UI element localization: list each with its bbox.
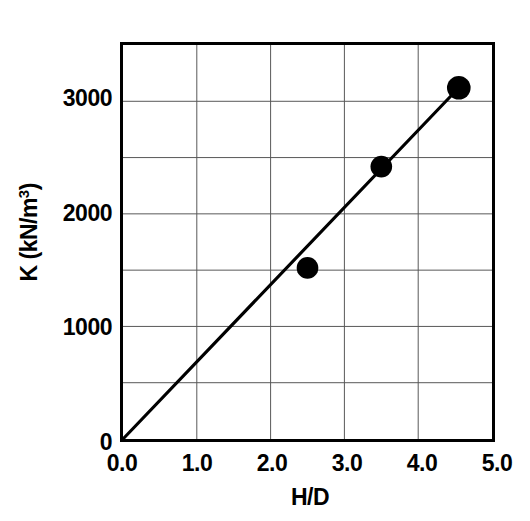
data-series	[123, 45, 492, 439]
y-axis-title-close: )	[16, 183, 42, 190]
data-point-marker	[370, 156, 392, 178]
y-tick-label-2000: 2000	[63, 202, 112, 225]
chart-figure: 3000 2000 1000 0 K (kN/m3)	[0, 0, 530, 521]
data-point-marker	[297, 257, 319, 279]
x-tick-label-4: 4.0	[387, 452, 457, 475]
plot-area	[120, 42, 495, 442]
y-axis-title: K (kN/m3)	[15, 117, 44, 347]
x-tick-label-0: 0.0	[87, 452, 157, 475]
x-tick-label-3: 3.0	[312, 452, 382, 475]
x-axis-title-text: H/D	[291, 484, 329, 510]
trend-line	[123, 88, 459, 439]
y-axis-title-base: K (kN/m	[16, 198, 42, 281]
x-tick-label-1: 1.0	[162, 452, 232, 475]
y-tick-label-1000: 1000	[63, 316, 112, 339]
x-tick-label-2: 2.0	[237, 452, 307, 475]
y-axis-title-exponent: 3	[15, 190, 32, 198]
x-axis-title: H/D	[0, 484, 530, 511]
x-tick-label-5: 5.0	[462, 452, 530, 475]
y-tick-label-3000: 3000	[63, 87, 112, 110]
data-point-marker	[447, 76, 471, 100]
